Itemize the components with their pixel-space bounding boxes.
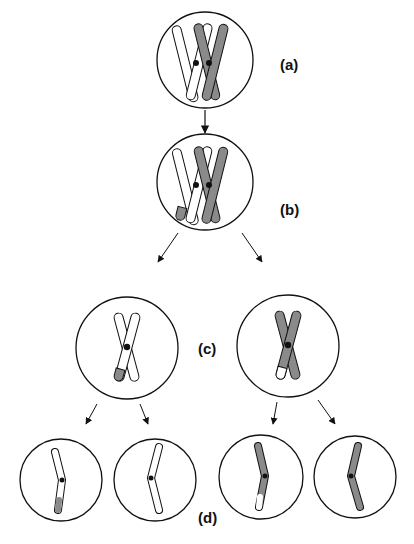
centromere-icon (193, 60, 199, 66)
cell-stage-c-right (237, 295, 339, 397)
label-stage-d: (d) (198, 509, 217, 526)
arrow-c-left-to-d1 (86, 404, 97, 424)
cell-stage-d-2 (114, 439, 196, 521)
centromere-icon (124, 344, 130, 350)
cell-stage-d-3 (219, 435, 303, 519)
centromere-icon (285, 342, 291, 348)
centromere-icon (349, 474, 354, 479)
centromere-icon (149, 476, 154, 481)
cell-stage-d-4 (314, 436, 396, 518)
meiosis-crossing-over-diagram (0, 0, 414, 544)
cell-stage-d-1 (20, 439, 102, 521)
arrow-b-to-c-right (242, 233, 262, 262)
centromere-icon (193, 182, 199, 188)
arrow-b-to-c-left (158, 233, 178, 262)
label-stage-b: (b) (280, 201, 299, 218)
cell-stage-a (157, 12, 253, 108)
centromere-icon (60, 478, 65, 483)
arrow-c-left-to-d2 (140, 404, 148, 424)
centromere-icon (263, 474, 268, 479)
cell-stage-c-left (76, 297, 178, 399)
cell-stage-b (157, 134, 253, 230)
arrow-c-right-to-d3 (273, 402, 277, 424)
centromere-icon (206, 182, 212, 188)
centromere-icon (206, 60, 212, 66)
label-stage-a: (a) (280, 56, 298, 73)
arrow-c-right-to-d4 (318, 400, 335, 424)
label-stage-c: (c) (198, 340, 216, 357)
